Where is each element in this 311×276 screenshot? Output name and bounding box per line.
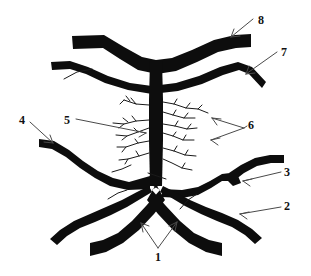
leader-line-6 xyxy=(211,118,247,145)
callout-label-1: 1 xyxy=(155,251,161,263)
callout-label-3: 3 xyxy=(284,166,290,178)
callout-label-5: 5 xyxy=(64,114,70,126)
central-trunk xyxy=(149,60,163,186)
leader-line-7 xyxy=(246,52,277,74)
callout-label-4: 4 xyxy=(19,114,25,126)
callout-label-8: 8 xyxy=(258,14,264,26)
anatomical-vessel-illustration xyxy=(0,0,311,276)
leader-line-2 xyxy=(240,207,281,219)
callout-label-2: 2 xyxy=(284,200,290,212)
figure-canvas: 1 2 3 4 5 6 7 8 xyxy=(0,0,311,276)
leader-line-3 xyxy=(243,172,281,186)
callout-label-7: 7 xyxy=(281,46,287,58)
fine-twigs-right xyxy=(163,99,208,170)
callout-label-6: 6 xyxy=(248,119,254,131)
leader-line-5 xyxy=(76,119,146,137)
